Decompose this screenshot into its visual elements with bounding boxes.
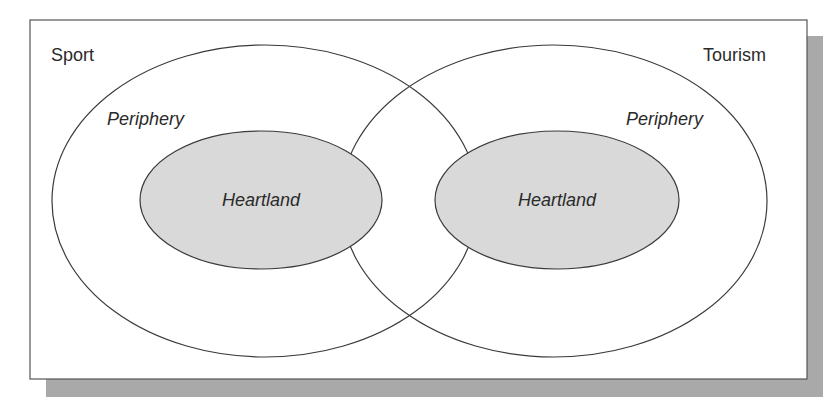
sport-periphery-label: Periphery (107, 109, 185, 129)
sport-tourism-venn-diagram: Sport Tourism Periphery Periphery Heartl… (0, 0, 825, 408)
sport-heartland-label: Heartland (222, 190, 301, 210)
tourism-set-label: Tourism (703, 45, 766, 65)
tourism-heartland-label: Heartland (518, 190, 597, 210)
tourism-periphery-label: Periphery (626, 109, 704, 129)
sport-set-label: Sport (51, 45, 94, 65)
